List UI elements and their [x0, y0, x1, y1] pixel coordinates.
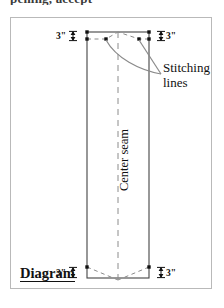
top-right-corner-dot [147, 30, 150, 33]
clipped-heading-text: pening, accept [10, 0, 210, 5]
top-left-corner-dot [85, 30, 88, 33]
top-left-offset-dot [85, 37, 88, 40]
stitching-lines-label-line1: Stitching [163, 60, 210, 75]
dimension-arrow-bottom-right [157, 267, 165, 278]
top-right-offset-dot [147, 37, 150, 40]
dim-top-right-label: 3" [166, 31, 176, 41]
figure-frame: 3" 3" 3" 3" [10, 17, 212, 289]
bottom-left-dot [85, 265, 88, 268]
center-seam-label: Center seam [117, 129, 131, 191]
dimension-arrow-top-left [69, 31, 77, 41]
diagram-caption: Diagram [20, 266, 75, 282]
sewing-diagram: 3" 3" 3" 3" [11, 18, 211, 288]
dim-top-left-label: 3" [56, 31, 66, 41]
stitching-dash-top-right [118, 32, 149, 39]
dimension-arrow-top-right [157, 31, 165, 41]
bottom-right-dot [147, 265, 150, 268]
stitching-lines-label-line2: lines [163, 75, 188, 90]
stitching-leader-curve-long [106, 40, 161, 74]
stitching-dash-top-left [87, 32, 118, 39]
dim-bottom-right-label: 3" [166, 268, 176, 278]
